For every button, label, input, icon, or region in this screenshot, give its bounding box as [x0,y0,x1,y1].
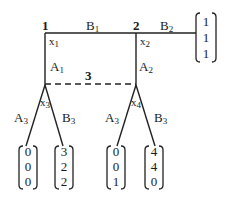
payoff-value: 1 [203,30,210,46]
node-1-label: 1 [42,19,49,32]
payoff-value: 0 [113,159,120,174]
edge-x3-b3 [45,85,63,146]
payoff-value: 0 [151,174,158,189]
payoff-value: 0 [113,144,120,159]
payoff-value: 0 [25,144,32,159]
payoff-x3-a3: 0 0 0 [17,144,39,189]
info-set-label: 3 [85,69,92,82]
edge-x3-b3-label: B3 [62,111,75,128]
edge-a2-label: A2 [139,60,153,77]
edge-x4-a3-label: A3 [105,111,119,128]
edge-b2-label: B2 [160,19,173,36]
payoff-value: 1 [113,174,120,189]
edge-a1-label: A1 [50,60,64,77]
payoff-value: 2 [61,159,68,174]
payoff-value: 0 [25,159,32,174]
edge-x3-a3 [26,85,45,146]
payoff-value: 4 [151,159,158,174]
edge-x4-b3 [136,85,155,146]
edge-x4-b3-label: B3 [154,111,167,128]
node-x3-label: x3 [40,96,50,112]
payoff-x4-b3: 4 4 0 [143,144,165,189]
payoff-value: 4 [151,144,158,159]
node-x4-label: x4 [131,96,141,112]
payoff-x3-b3: 3 2 2 [53,144,75,189]
payoff-value: 0 [25,174,32,189]
payoff-value: 1 [203,14,210,30]
payoff-x4-a3: 0 0 1 [105,144,127,189]
node-2-label: 2 [133,19,140,32]
payoff-value: 2 [61,174,68,189]
edge-x3-a3-label: A3 [14,111,28,128]
node-x2-label: x2 [140,35,150,51]
edge-x4-a3 [117,85,136,146]
payoff-value: 1 [203,46,210,62]
payoff-b2: 1 1 1 [195,14,217,62]
payoff-value: 3 [61,144,68,159]
node-x1-label: x1 [49,35,59,51]
edge-b1-label: B1 [86,19,99,36]
